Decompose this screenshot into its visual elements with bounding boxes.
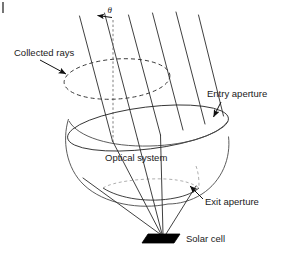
bowl-inner-hidden-wall	[196, 166, 199, 188]
converging-ray-5	[166, 186, 196, 234]
solar-cell-shape	[142, 234, 180, 243]
optical-system-annotation: Optical system	[105, 152, 167, 163]
figure-canvas: θ Collected rays	[0, 0, 285, 255]
optical-system-label: Optical system	[105, 152, 167, 163]
converging-ray-4	[161, 135, 164, 234]
solar-cell-label: Solar cell	[186, 233, 225, 244]
entry-aperture-pointer-arrow-icon	[214, 102, 222, 117]
collected-rays-annotation: Collected rays	[14, 47, 74, 74]
solar-concentrator-figure: θ Collected rays	[0, 0, 285, 255]
collected-rays-label: Collected rays	[14, 47, 74, 58]
exit-aperture-annotation: Exit aperture	[190, 186, 259, 207]
entry-aperture-rim	[65, 97, 231, 158]
solar-cell-group: Solar cell	[142, 233, 225, 244]
bowl-inner-lip	[69, 121, 228, 146]
incoming-ray-5	[176, 12, 205, 124]
incoming-ray-bundle	[80, 12, 224, 141]
incoming-ray-4	[153, 13, 184, 130]
entry-aperture-annotation: Entry aperture	[207, 88, 267, 117]
exit-aperture-back-arc	[103, 179, 199, 188]
exit-aperture-label: Exit aperture	[205, 196, 259, 207]
collected-rays-pointer-arrow-icon	[40, 60, 66, 74]
left-arrow-icon	[98, 16, 113, 18]
incoming-ray-3	[129, 15, 161, 135]
entry-aperture-label: Entry aperture	[207, 88, 267, 99]
incoming-ray-6	[199, 15, 224, 116]
angle-theta-label: θ	[108, 5, 113, 15]
